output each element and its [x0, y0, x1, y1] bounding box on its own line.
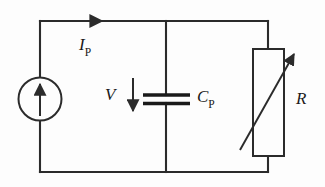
label-capacitor-symbol: C [197, 87, 208, 106]
label-resistor-r: R [296, 90, 306, 107]
label-capacitor-cp: CP [197, 88, 215, 109]
label-resistor-symbol: R [296, 89, 306, 108]
label-current-symbol: I [79, 35, 85, 54]
capacitor-symbol [143, 95, 190, 104]
resistor-box [253, 49, 284, 156]
current-source-symbol [19, 78, 62, 121]
label-capacitor-subscript: P [208, 98, 214, 111]
label-current-subscript: P [85, 46, 91, 59]
variable-resistor-symbol [240, 49, 294, 156]
label-voltage-symbol: V [105, 85, 115, 104]
label-current-ip: IP [79, 36, 91, 57]
label-voltage-v: V [105, 86, 115, 103]
circuit-diagram: IP V CP R [0, 0, 325, 187]
circuit-schematic-svg [0, 0, 325, 187]
